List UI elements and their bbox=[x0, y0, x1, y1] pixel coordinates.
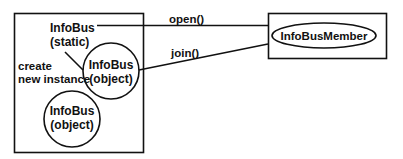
infobus-object-2-label: InfoBus bbox=[50, 104, 95, 118]
open-edge-label: open() bbox=[169, 13, 204, 25]
infobus-object-1-sublabel: (object) bbox=[89, 72, 132, 86]
create-label: create bbox=[18, 60, 52, 72]
join-edge bbox=[139, 44, 268, 70]
infobus-static-sublabel: (static) bbox=[50, 35, 89, 49]
new-instance-label: new instance bbox=[18, 73, 90, 85]
infobus-object-2-sublabel: (object) bbox=[50, 118, 93, 132]
infobus-member-label: InfoBusMember bbox=[281, 30, 368, 42]
join-edge-label: join() bbox=[170, 47, 199, 59]
infobus-diagram: InfoBus (static) create new instance Inf… bbox=[0, 0, 403, 159]
create-instance-connector bbox=[65, 52, 83, 70]
infobus-object-1-label: InfoBus bbox=[89, 58, 134, 72]
infobus-static-label: InfoBus bbox=[50, 21, 95, 35]
